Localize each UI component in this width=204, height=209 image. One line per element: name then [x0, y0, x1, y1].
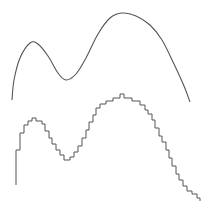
figure-canvas — [0, 0, 204, 209]
